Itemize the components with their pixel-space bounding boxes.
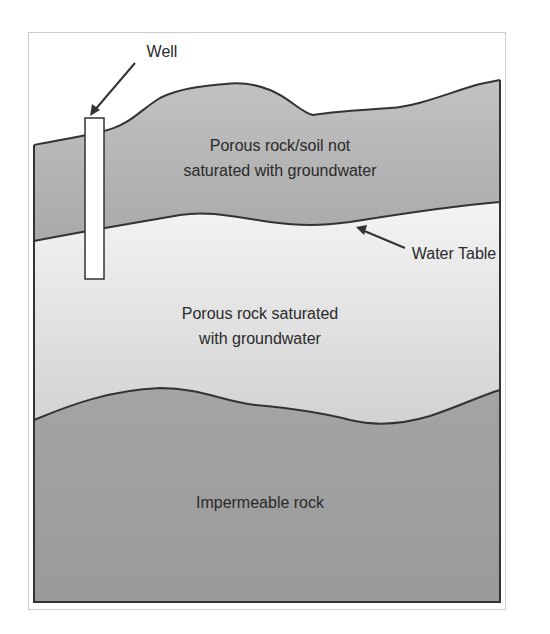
- water-table-label: Water Table: [404, 244, 504, 264]
- impermeable-label: Impermeable rock: [155, 493, 365, 513]
- well-shaft: [85, 118, 104, 279]
- unsaturated-label-line1: Porous rock/soil not: [160, 136, 400, 156]
- saturated-label-line2: with groundwater: [150, 329, 370, 349]
- saturated-label-line1: Porous rock saturated: [140, 304, 380, 324]
- well-label: Well: [142, 42, 182, 62]
- unsaturated-label-line2: saturated with groundwater: [140, 161, 420, 181]
